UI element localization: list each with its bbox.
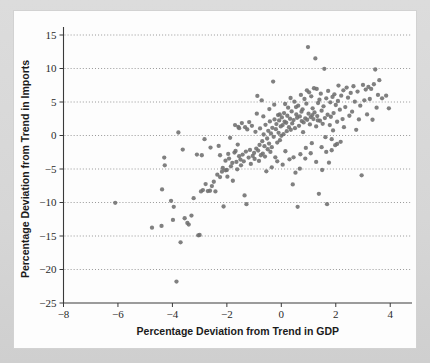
data-point [351,84,355,88]
data-point [265,136,269,140]
data-point [299,110,303,114]
data-point [283,102,287,106]
data-point [305,88,309,92]
data-point [217,144,221,148]
data-point [291,118,295,122]
data-point [316,118,320,122]
data-point [160,187,164,191]
data-point [257,159,261,163]
data-point [330,148,334,152]
data-point [176,130,180,134]
data-point [272,135,276,139]
y-tick-label: −15 [39,230,57,242]
data-point [244,149,248,153]
data-point [332,92,336,96]
data-point [195,152,199,156]
data-point [255,94,259,98]
x-tick-label: −4 [167,308,179,320]
data-point [297,124,301,128]
data-point [380,96,384,100]
data-point [368,97,372,101]
scatter-plot-svg: −25−20−15−10−5051015−8−6−4−2024Percentag… [14,11,416,348]
data-point [338,108,342,112]
data-point [285,129,289,133]
data-point [305,118,309,122]
data-point [350,110,354,114]
data-point [377,78,381,82]
x-tick-label: −6 [112,308,124,320]
data-point [345,85,349,89]
data-point [221,204,225,208]
data-point [354,128,358,132]
axes [64,27,413,303]
data-point [329,115,333,119]
data-point [262,144,266,148]
data-point [212,180,216,184]
data-point [252,157,256,161]
data-point [263,123,267,127]
data-point [218,153,222,157]
data-point [315,87,319,91]
data-point [181,147,185,151]
data-point [270,145,274,149]
gridlines [65,35,413,270]
data-point [289,128,293,132]
data-point [183,216,187,220]
data-point [202,137,206,141]
data-point [306,45,310,49]
data-point [384,93,388,97]
data-point [310,106,314,110]
data-point [322,67,326,71]
data-point [200,153,204,157]
data-point [298,152,302,156]
data-point [313,56,317,60]
x-axis-title: Percentage Deviation from Trend in GDP [137,325,339,337]
data-point [239,163,243,167]
data-point [330,137,334,141]
data-point [244,202,248,206]
data-point [261,114,265,118]
data-point [250,124,254,128]
data-point [267,107,271,111]
data-point [317,98,321,102]
data-point [201,188,205,192]
data-point [293,126,297,130]
data-point [269,131,273,135]
data-point [281,132,285,136]
y-tick-label: 15 [46,29,58,41]
data-point [281,163,285,167]
data-point [323,116,327,120]
data-point [243,125,247,129]
data-point [358,104,362,108]
data-point [294,105,298,109]
screenshot-root: −25−20−15−10−5051015−8−6−4−2024Percentag… [0,0,430,363]
data-point [242,193,246,197]
data-point [357,117,361,121]
x-tick-label: 0 [279,308,285,320]
data-point [174,279,178,283]
data-point [257,143,261,147]
data-point [355,89,359,93]
data-point [272,103,276,107]
data-point [278,138,282,142]
data-point [370,118,374,122]
data-point [247,120,251,124]
data-point [331,111,335,115]
data-point [342,125,346,129]
data-point [260,139,264,143]
data-point [237,126,241,130]
x-tick-label: −8 [58,308,70,320]
data-point [234,160,238,164]
data-point [335,120,339,124]
data-point [334,103,338,107]
data-point [335,142,339,146]
data-point [283,149,287,153]
data-point [223,158,227,162]
data-point [296,205,300,209]
data-point [246,155,250,159]
data-point [314,124,318,128]
data-point [189,213,193,217]
data-point [270,165,274,169]
data-point [162,155,166,159]
data-point [271,79,275,83]
